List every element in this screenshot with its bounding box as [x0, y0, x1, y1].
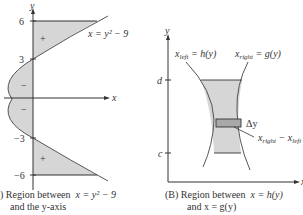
tick-neg6: −6	[14, 170, 25, 181]
sign-minus-upper: −	[21, 80, 27, 91]
strip-rectangle	[216, 119, 241, 127]
sign-plus-top: +	[40, 33, 46, 44]
y-axis-label: y	[29, 0, 35, 11]
caption-b-line2: and x = g(y)	[187, 201, 236, 213]
delta-y-label: Δy	[246, 118, 257, 129]
x-axis-label: x	[111, 92, 117, 103]
y-axis-label-b: y	[164, 25, 170, 36]
right-curve-label: xright = g(y)	[234, 48, 282, 61]
tick-neg3: −3	[14, 133, 25, 144]
sign-minus-lower: −	[21, 104, 27, 115]
left-curve	[186, 62, 214, 167]
tick-d: d	[157, 75, 163, 86]
tick-c: c	[158, 148, 163, 159]
caption-a-line1: ) Region between x = y² − 9	[0, 189, 116, 201]
caption-b-line1: (B) Region between x = h(y)	[165, 189, 283, 201]
figure-a: y x 6 3 −3 −6 x = y² − 9 + − − +	[4, 0, 128, 190]
figure-b: y x d c xleft = h(y) xright = g(y) Δy xr…	[157, 25, 303, 187]
width-label: xright − xleft	[257, 132, 302, 145]
figure-canvas: y x 6 3 −3 −6 x = y² − 9 + − − + y x	[0, 0, 303, 215]
right-curve	[237, 62, 250, 170]
tick-6: 6	[19, 16, 24, 27]
curve-label: x = y² − 9	[87, 28, 128, 39]
left-curve-label: xleft = h(y)	[174, 48, 217, 61]
caption-a-line2: and the y-axis	[10, 201, 66, 213]
tick-3: 3	[19, 54, 24, 65]
x-axis-label-b: x	[300, 176, 303, 187]
sign-plus-bottom: +	[40, 153, 46, 164]
